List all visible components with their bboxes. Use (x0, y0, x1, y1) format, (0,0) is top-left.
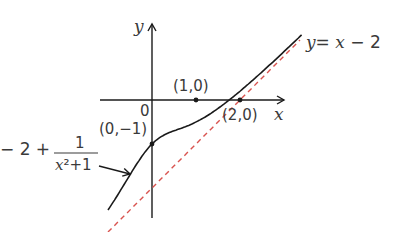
curve-label-numerator: 1 (75, 134, 85, 152)
asymptote-label: y= x − 2 (305, 32, 381, 52)
curve-label-denominator: x²+1 (55, 156, 92, 174)
point-0-neg1 (150, 142, 155, 147)
curve-label-prefix: − 2 + (0, 139, 50, 159)
point-label-1-0: (1,0) (173, 77, 209, 95)
x-axis-label: x (274, 104, 284, 124)
graph-figure: y x 0 (1,0) (2,0) (0,−1) y= x − 2 − 2 + … (0, 0, 404, 232)
point-label-2-0: (2,0) (222, 106, 258, 124)
point-label-0-neg1: (0,−1) (99, 120, 147, 138)
point-1-0 (194, 98, 199, 103)
pointer-arrow (99, 166, 130, 174)
point-2-0 (238, 98, 243, 103)
y-axis-label: y (133, 16, 144, 36)
origin-label: 0 (140, 102, 150, 120)
